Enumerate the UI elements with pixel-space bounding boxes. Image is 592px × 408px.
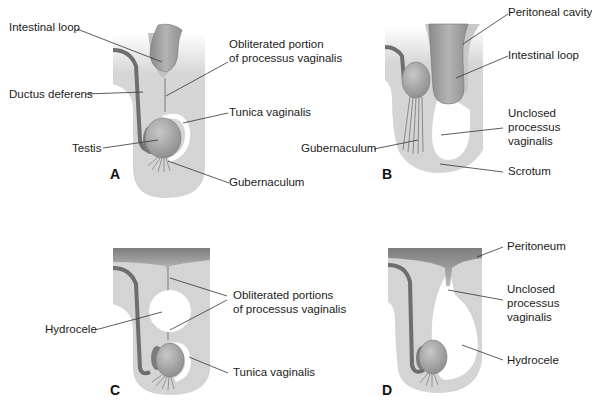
label-unclosed-processus-d-line3: vaginalis — [507, 311, 552, 324]
panel-b-drawing — [385, 24, 483, 173]
label-intestinal-loop-a: Intestinal loop — [9, 21, 80, 34]
label-unclosed-processus-d-line1: Unclosed — [507, 283, 555, 296]
label-testis: Testis — [72, 142, 101, 155]
label-hydrocele-d: Hydrocele — [507, 354, 559, 367]
label-scrotum: Scrotum — [508, 165, 551, 178]
panel-letter-c: C — [110, 382, 120, 398]
panel-a-drawing — [113, 24, 205, 198]
label-unclosed-processus-d-line2: processus — [507, 297, 559, 310]
label-intestinal-loop-b: Intestinal loop — [508, 49, 579, 62]
label-unclosed-processus-b-line3: vaginalis — [508, 135, 553, 148]
label-obliterated-portions-c-line2: of processus vaginalis — [233, 303, 346, 316]
label-peritoneum: Peritoneum — [507, 240, 566, 253]
label-obliterated-portions-c-line1: Obliterated portions — [233, 289, 333, 302]
label-peritoneal-cavity: Peritoneal cavity — [508, 6, 592, 19]
label-obliterated-portion-a-line2: of processus vaginalis — [229, 52, 342, 65]
label-unclosed-processus-b-line1: Unclosed — [508, 107, 556, 120]
label-hydrocele-c: Hydrocele — [45, 323, 97, 336]
panel-letter-a: A — [110, 166, 120, 182]
label-gubernaculum-b: Gubernaculum — [301, 142, 376, 155]
panel-letter-d: D — [382, 382, 392, 398]
label-obliterated-portion-a-line1: Obliterated portion — [229, 38, 324, 51]
label-unclosed-processus-b-line2: processus — [508, 121, 560, 134]
label-gubernaculum-a: Gubernaculum — [229, 176, 304, 189]
label-ductus-deferens: Ductus deferens — [9, 88, 93, 101]
panel-letter-b: B — [382, 166, 392, 182]
panel-d-drawing — [388, 248, 482, 393]
label-tunica-vaginalis-a: Tunica vaginalis — [229, 106, 311, 119]
label-tunica-vaginalis-c: Tunica vaginalis — [233, 366, 315, 379]
